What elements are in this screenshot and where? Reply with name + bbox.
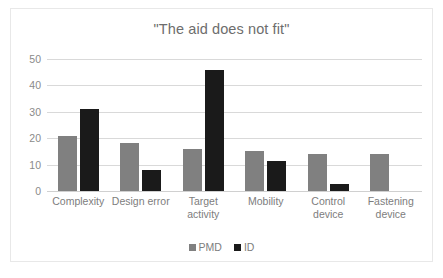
y-tick-label-20: 20 (29, 132, 41, 144)
bar-pmd-control-device[interactable] (308, 154, 327, 191)
legend-label-pmd: PMD (199, 241, 222, 253)
bar-pmd-target-activity[interactable] (183, 149, 202, 191)
bar-groups (47, 59, 422, 191)
x-label-control-device: Control device (297, 195, 360, 221)
bar-group-complexity (47, 59, 110, 191)
y-tick-label-10: 10 (29, 159, 41, 171)
bar-pmd-complexity[interactable] (58, 136, 77, 191)
chart-title: "The aid does not fit" (11, 21, 432, 37)
bar-group-target-activity (172, 59, 235, 191)
legend-swatch-id-icon (234, 244, 241, 251)
bar-pmd-design-error[interactable] (120, 143, 139, 191)
legend-item-id[interactable]: ID (234, 241, 255, 253)
x-label-target-activity: Target activity (172, 195, 235, 221)
bar-group-design-error (110, 59, 173, 191)
gridline-0: 0 (47, 191, 422, 192)
bar-group-fastening-device (360, 59, 423, 191)
legend-swatch-pmd-icon (189, 244, 196, 251)
bar-id-design-error[interactable] (142, 170, 161, 191)
bar-id-target-activity[interactable] (205, 70, 224, 191)
bar-id-control-device[interactable] (330, 184, 349, 191)
x-axis-labels: Complexity Design error Target activity … (47, 195, 422, 221)
legend-label-id: ID (244, 241, 255, 253)
bar-group-control-device (297, 59, 360, 191)
y-tick-label-50: 50 (29, 53, 41, 65)
x-label-mobility: Mobility (235, 195, 298, 221)
plot-area: 50 40 30 20 10 0 (47, 59, 422, 191)
bar-group-mobility (235, 59, 298, 191)
bar-pmd-fastening-device[interactable] (370, 154, 389, 191)
y-tick-label-0: 0 (35, 185, 41, 197)
x-label-design-error: Design error (110, 195, 173, 221)
x-label-complexity: Complexity (47, 195, 110, 221)
bar-id-mobility[interactable] (267, 161, 286, 191)
bar-id-complexity[interactable] (80, 109, 99, 191)
y-tick-label-30: 30 (29, 106, 41, 118)
bar-pmd-mobility[interactable] (245, 151, 264, 191)
chart-legend: PMD ID (11, 241, 432, 253)
y-tick-label-40: 40 (29, 79, 41, 91)
chart-container: "The aid does not fit" 50 40 30 20 10 0 (10, 8, 433, 262)
legend-item-pmd[interactable]: PMD (189, 241, 222, 253)
x-label-fastening-device: Fastening device (360, 195, 423, 221)
